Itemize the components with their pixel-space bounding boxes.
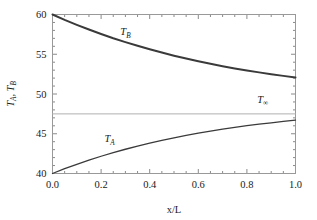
x-tick-label: 0.4 bbox=[143, 179, 157, 190]
line-chart: 0.00.20.40.60.81.0 4045505560 x/L TA,TB … bbox=[0, 0, 317, 220]
x-tick-label: 0.6 bbox=[192, 179, 205, 190]
y-tick-label: 50 bbox=[36, 89, 47, 100]
y-tick-label: 40 bbox=[36, 168, 47, 179]
tinf-sub: ∞ bbox=[263, 99, 268, 107]
x-tick-label: 1.0 bbox=[289, 179, 302, 190]
y-title-tb-sub: B bbox=[10, 81, 18, 86]
tb-sub: B bbox=[126, 32, 131, 40]
x-tick-label: 0.2 bbox=[95, 179, 108, 190]
y-tick-label: 60 bbox=[36, 9, 47, 20]
x-tick-label: 0.0 bbox=[46, 179, 59, 190]
y-tick-label: 55 bbox=[36, 49, 47, 60]
chart-figure: 0.00.20.40.60.81.0 4045505560 x/L TA,TB … bbox=[0, 0, 317, 220]
ta-sub: A bbox=[109, 139, 115, 147]
x-axis-title: x/L bbox=[167, 204, 182, 215]
x-tick-label: 0.8 bbox=[240, 179, 253, 190]
y-tick-label: 45 bbox=[36, 128, 47, 139]
